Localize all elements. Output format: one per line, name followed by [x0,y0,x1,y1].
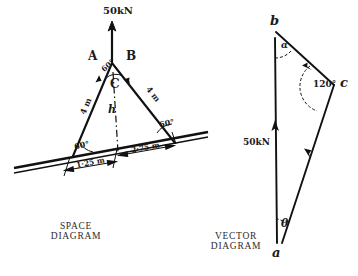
figure-canvas: 50kN A B C h 60° 4 m 4 m 60° 60° 1·25 m … [0,0,358,276]
vector-ab-load-line [275,38,277,243]
space-diagram-group [14,21,208,176]
base-left-angle-label: 60° [73,140,89,151]
space-load-label: 50kN [103,6,133,16]
vector-diagram-caption: VECTOR DIAGRAM [196,232,276,251]
vector-diagram-group [271,32,334,243]
angle-theta-label: θ [281,218,288,229]
joint-label-a: A [88,50,97,62]
space-caption-line2: DIAGRAM [30,232,122,242]
node-label-c: C [110,78,120,90]
vector-caption-line2: DIAGRAM [196,242,276,252]
vector-vertex-label-c: c [340,76,348,89]
vector-load-label: 50kN [243,138,270,147]
space-diagram-caption: SPACE DIAGRAM [30,222,122,241]
base-right-angle-label: 60° [158,118,174,129]
load-arrow-space [108,21,116,62]
angle-alpha-arc [275,50,292,58]
height-label-h: h [108,104,116,115]
angle-120-label: 120° [313,80,336,89]
joint-label-b: B [126,50,136,62]
vector-ca-line [282,85,334,243]
ground-beam [14,132,208,173]
vector-vertex-label-b: b [270,14,279,27]
angle-alpha-label: α [281,41,288,50]
